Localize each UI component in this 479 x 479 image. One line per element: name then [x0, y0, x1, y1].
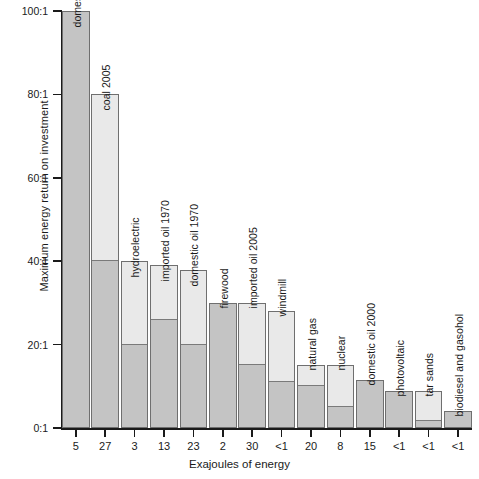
- bar: [150, 265, 178, 428]
- x-tick-mark: [310, 428, 312, 437]
- x-tick-mark: [134, 428, 136, 437]
- y-tick-mark: [53, 344, 62, 346]
- bar-lower-segment: [181, 344, 207, 427]
- eroi-bar-chart: Maximum energy return on investment 100:…: [0, 0, 479, 479]
- bar-category-label: domestic oil 1970: [189, 203, 200, 286]
- x-tick-label: 20: [305, 440, 317, 452]
- y-tick-label: 100:1: [0, 5, 48, 17]
- y-tick-label: 80:1: [0, 88, 48, 100]
- y-tick-mark: [53, 10, 62, 12]
- x-axis-title: Exajoules of energy: [0, 458, 479, 470]
- y-tick-mark: [53, 177, 62, 179]
- bar-category-label: biodiesel and gasohol: [453, 314, 464, 417]
- bar: [268, 311, 296, 428]
- y-tick-label: 20:1: [0, 339, 48, 351]
- bar-category-label: tar sands: [424, 353, 435, 397]
- bar-category-label: coal 2005: [100, 65, 111, 111]
- x-tick-mark: [251, 428, 253, 437]
- x-tick-label: <1: [393, 440, 406, 452]
- x-tick-label: 2: [220, 440, 226, 452]
- bar: [121, 261, 149, 428]
- y-tick-label: 40:1: [0, 255, 48, 267]
- bar: [297, 365, 325, 428]
- bar-category-label: firewood: [218, 268, 229, 308]
- bar-category-label: imported oil 1970: [159, 200, 170, 281]
- bar-lower-segment: [269, 381, 295, 427]
- x-tick-mark: [163, 428, 165, 437]
- x-tick-label: <1: [452, 440, 465, 452]
- x-tick-mark: [281, 428, 283, 437]
- bar: [180, 270, 208, 428]
- x-tick-mark: [104, 428, 106, 437]
- bar: [209, 303, 237, 428]
- bar-lower-segment: [122, 344, 148, 427]
- bar-category-label: domestic oil 1930: [71, 0, 82, 28]
- y-tick-label: 60:1: [0, 172, 48, 184]
- bar-category-label: hydroelectric: [130, 218, 141, 278]
- x-tick-label: <1: [422, 440, 435, 452]
- y-tick-mark: [53, 260, 62, 262]
- x-tick-label: 8: [337, 440, 343, 452]
- x-axis-line: [61, 428, 472, 430]
- bar-lower-segment: [151, 319, 177, 427]
- x-tick-mark: [340, 428, 342, 437]
- bar-category-label: windmill: [277, 279, 288, 317]
- bar-category-label: domestic oil 2000: [365, 303, 376, 386]
- bar-category-label: natural gas: [306, 318, 317, 371]
- bar: [415, 391, 443, 428]
- x-tick-mark: [75, 428, 77, 437]
- x-tick-label: 23: [187, 440, 199, 452]
- bar-lower-segment: [239, 364, 265, 427]
- bar-lower-segment: [298, 385, 324, 427]
- x-tick-mark: [222, 428, 224, 437]
- bar: [356, 380, 384, 428]
- bar-category-label: nuclear: [336, 336, 347, 371]
- y-tick-mark: [53, 94, 62, 96]
- x-tick-mark: [428, 428, 430, 437]
- x-tick-label: 5: [73, 440, 79, 452]
- bar-lower-segment: [328, 406, 354, 427]
- x-tick-label: 3: [132, 440, 138, 452]
- bar-lower-segment: [416, 420, 442, 427]
- bar-lower-segment: [92, 260, 118, 427]
- bar: [238, 303, 266, 428]
- x-tick-mark: [369, 428, 371, 437]
- x-tick-label: 13: [158, 440, 170, 452]
- bar: [385, 391, 413, 428]
- bar: [91, 94, 119, 428]
- y-tick-label: 0:1: [0, 422, 48, 434]
- bar-lower-segment: [357, 380, 383, 427]
- x-tick-mark: [457, 428, 459, 437]
- x-tick-label: 15: [364, 440, 376, 452]
- bar: [327, 365, 355, 428]
- x-tick-label: 27: [99, 440, 111, 452]
- bar-category-label: photovoltaic: [394, 340, 405, 397]
- bar-lower-segment: [386, 391, 412, 427]
- bar-lower-segment: [210, 303, 236, 427]
- bar-category-label: imported oil 2005: [247, 227, 258, 308]
- x-tick-label: <1: [275, 440, 288, 452]
- x-tick-mark: [193, 428, 195, 437]
- x-tick-mark: [398, 428, 400, 437]
- x-tick-label: 30: [246, 440, 258, 452]
- bar: [62, 11, 90, 428]
- bar-lower-segment: [63, 11, 89, 427]
